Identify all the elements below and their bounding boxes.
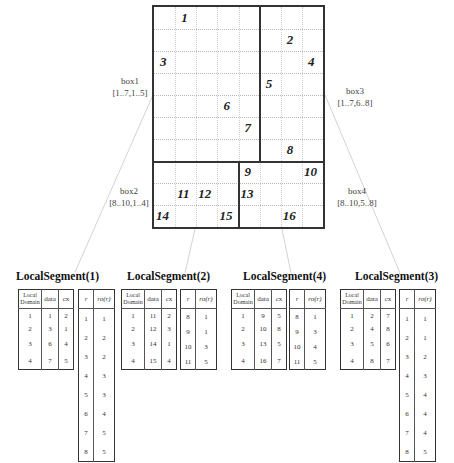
segment-2-ro-table: rro(r)8191103115 [180,289,217,370]
domain-header: Local Domain [341,290,364,309]
ro-cell: 5 [400,385,415,404]
ro-header: r [181,290,196,309]
ro-cell: 3 [94,366,115,385]
domain-cell: 1 [122,309,145,323]
domain-cell: 5 [272,335,287,352]
domain-cell: 9 [255,309,272,323]
domain-cell: 2 [59,309,74,323]
ro-cell: 8 [181,309,196,325]
domain-cell: 16 [255,352,272,370]
ro-cell: 1 [400,309,415,329]
ro-cell: 2 [94,347,115,366]
domain-cell: 3 [122,335,145,352]
table-row: 64 [79,404,115,423]
table-row: 112 [19,309,74,323]
ro-cell: 6 [400,404,415,423]
domain-cell: 10 [255,322,272,335]
partition-box1-box3 [259,7,261,161]
box1-range: [1..7,1..5] [105,87,155,99]
grid-cell-number: 1 [181,10,188,26]
table-row: 2108 [232,322,287,335]
grid-cell-number: 3 [160,54,167,70]
grid-cell-number: 13 [241,186,254,202]
domain-header: cx [162,290,177,309]
table-row: 3135 [232,335,287,352]
domain-grid: 12345678910111213141516 [152,5,325,229]
domain-cell: 12 [145,322,162,335]
ro-cell: 2 [415,347,436,366]
grid-cell-number: 11 [177,186,189,202]
ro-cell: 3 [79,347,94,366]
domain-cell: 4 [59,335,74,352]
box4-label: box4 [8..10,5..8] [330,185,384,209]
ro-cell: 1 [305,309,326,325]
ro-cell: 3 [94,385,115,404]
ro-cell: 7 [79,423,94,442]
ro-cell: 4 [305,339,326,354]
grid-cell-number: 6 [223,98,230,114]
table-row: 43 [400,366,436,385]
ro-cell: 11 [290,354,305,370]
grid-cell-number: 4 [308,54,315,70]
ro-cell: 1 [196,324,217,339]
domain-cell: 4 [122,352,145,370]
table-row: 487 [341,352,396,370]
ro-header: ro(r) [415,290,436,309]
segment-4-ro-table: rro(r)8193104115 [289,289,326,370]
table-row: 115 [290,354,326,370]
segment-2-domain-table: Local Domaindatacx1112212331414154 [121,289,177,370]
domain-cell: 4 [364,322,381,335]
ro-cell: 5 [94,423,115,442]
ro-cell: 1 [94,309,115,329]
domain-cell: 5 [272,309,287,323]
table-row: 22 [79,328,115,347]
domain-header: data [42,290,59,309]
table-row: 81 [181,309,217,325]
domain-cell: 14 [145,335,162,352]
box4-name: box4 [330,185,384,197]
domain-cell: 4 [162,352,177,370]
domain-cell: 2 [122,322,145,335]
partition-box2-box4 [238,161,240,227]
table-row: 64 [400,404,436,423]
ro-cell: 3 [400,347,415,366]
table-row: 127 [341,309,396,323]
ro-cell: 8 [290,309,305,325]
ro-cell: 4 [400,366,415,385]
grid-cell-number: 8 [287,142,294,158]
ro-cell: 4 [415,385,436,404]
table-row: 3141 [122,335,177,352]
table-row: 11 [79,309,115,329]
domain-cell: 7 [381,352,396,370]
ro-cell: 5 [305,354,326,370]
segment-4-domain-table: Local Domaindatacx195210831354167 [231,289,287,370]
domain-cell: 7 [381,309,396,323]
ro-header: ro(r) [305,290,326,309]
segment-1-title: LocalSegment(1) [16,270,99,282]
table-row: 231 [19,322,74,335]
table-row: 2123 [122,322,177,335]
ro-cell: 1 [196,309,217,325]
table-row: 91 [181,324,217,339]
ro-header: r [400,290,415,309]
domain-cell: 5 [364,335,381,352]
grid-cell-number: 2 [287,32,294,48]
box3-label: box3 [1..7,6..8] [330,85,380,109]
ro-cell: 1 [415,328,436,347]
grid-cell-number: 14 [156,208,169,224]
domain-cell: 7 [42,352,59,370]
table-row: 195 [232,309,287,323]
segment-3-ro-table: rro(r)1121324354647485 [399,289,436,462]
box3-range: [1..7,6..8] [330,97,380,109]
ro-cell: 8 [400,442,415,462]
grid-cell-number: 15 [219,208,232,224]
table-row: 74 [400,423,436,442]
segment-3-title: LocalSegment(3) [355,270,438,282]
ro-header: ro(r) [196,290,217,309]
ro-cell: 2 [400,328,415,347]
domain-cell: 2 [162,309,177,323]
box1-label: box1 [1..7,1..5] [105,75,155,99]
ro-cell: 3 [415,366,436,385]
table-row: 85 [400,442,436,462]
table-row: 115 [181,354,217,370]
